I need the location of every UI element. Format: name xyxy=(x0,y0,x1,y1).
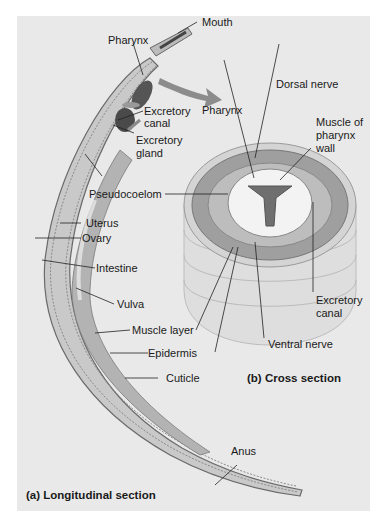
label-excretory-gland-1: Excretory xyxy=(136,134,182,147)
label-pharynx-a: Pharynx xyxy=(108,34,148,47)
label-dorsal-nerve: Dorsal nerve xyxy=(276,78,338,91)
label-epidermis: Epidermis xyxy=(148,347,197,360)
label-muscle-pharynx-2: pharynx xyxy=(316,129,355,142)
label-anus: Anus xyxy=(231,445,256,458)
mouth-inset xyxy=(150,28,192,56)
caption-cross-section: (b) Cross section xyxy=(247,372,341,384)
label-excretory-gland-2: gland xyxy=(136,147,163,160)
label-ventral-nerve: Ventral nerve xyxy=(268,338,333,351)
label-muscle-layer: Muscle layer xyxy=(132,324,194,337)
label-excretory-canal-a-2: canal xyxy=(144,117,170,130)
label-excretory-canal-b-2: canal xyxy=(316,307,342,320)
label-intestine: Intestine xyxy=(96,262,138,275)
label-ovary: Ovary xyxy=(82,232,111,245)
label-uterus: Uterus xyxy=(86,217,118,230)
label-pseudocoelom: Pseudocoelom xyxy=(89,188,162,201)
label-excretory-canal-b-1: Excretory xyxy=(316,294,362,307)
caption-longitudinal-section: (a) Longitudinal section xyxy=(26,489,156,501)
label-muscle-pharynx-3: wall xyxy=(316,142,335,155)
label-pharynx-b: Pharynx xyxy=(202,104,242,117)
label-mouth: Mouth xyxy=(202,16,233,29)
label-vulva: Vulva xyxy=(117,298,144,311)
label-muscle-pharynx-1: Muscle of xyxy=(316,116,363,129)
label-cuticle: Cuticle xyxy=(166,372,200,385)
